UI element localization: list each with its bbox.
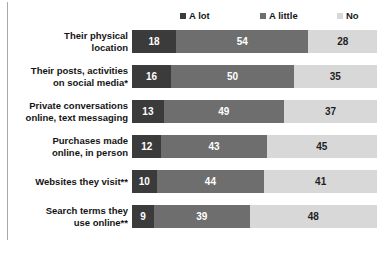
- row-category-label: Their physical location: [10, 27, 128, 56]
- row-label-line2: on social media*: [53, 77, 128, 89]
- row-label-line2: online, text messaging: [26, 112, 128, 124]
- bar-segment-no: 28: [308, 30, 377, 53]
- row-label-line1: Private conversations: [29, 100, 128, 112]
- chart-row: Private conversations online, text messa…: [0, 97, 386, 132]
- stacked-bar: 10 44 41: [132, 170, 377, 193]
- legend-item-no: No: [337, 10, 359, 21]
- bar-segment-a-little: 49: [164, 100, 284, 123]
- chart-row: Their physical location 18 54 28: [0, 27, 386, 62]
- legend-label-no: No: [346, 10, 359, 21]
- stacked-bar: 18 54 28: [132, 30, 377, 53]
- legend-swatch-a-little: [260, 13, 266, 19]
- bar-segment-a-little: 44: [157, 170, 265, 193]
- row-label-line2: use online**: [74, 217, 128, 229]
- bar-segment-a-lot: 10: [132, 170, 157, 193]
- stacked-bar-chart: A lot A little No Their physical locatio…: [0, 0, 386, 253]
- chart-rows: Their physical location 18 54 28 Their p…: [0, 27, 386, 237]
- legend-swatch-a-lot: [180, 13, 186, 19]
- row-label-line2: location: [92, 42, 128, 54]
- legend-label-a-little: A little: [269, 10, 298, 21]
- chart-row: Search terms they use online** 9 39 48: [0, 202, 386, 237]
- bar-segment-a-lot: 13: [132, 100, 164, 123]
- row-label-line1: Search terms they: [46, 205, 128, 217]
- stacked-bar: 9 39 48: [132, 205, 377, 228]
- bar-segment-a-little: 54: [176, 30, 308, 53]
- bar-segment-no: 45: [267, 135, 377, 158]
- legend-swatch-no: [337, 13, 343, 19]
- row-category-label: Search terms they use online**: [10, 202, 128, 231]
- stacked-bar: 12 43 45: [132, 135, 377, 158]
- chart-row: Their posts, activities on social media*…: [0, 62, 386, 97]
- row-category-label: Purchases made online, in person: [10, 132, 128, 161]
- legend-item-a-lot: A lot: [180, 10, 210, 21]
- row-label-line1: Purchases made: [52, 135, 128, 147]
- bar-segment-no: 41: [264, 170, 377, 193]
- legend-label-a-lot: A lot: [189, 10, 210, 21]
- bar-segment-a-lot: 18: [132, 30, 176, 53]
- chart-legend: A lot A little No: [132, 10, 378, 24]
- bar-segment-a-little: 50: [171, 65, 294, 88]
- chart-footnote: [10, 243, 370, 251]
- legend-item-a-little: A little: [260, 10, 298, 21]
- bar-segment-a-little: 43: [161, 135, 266, 158]
- row-label-line1: Websites they visit**: [35, 176, 128, 188]
- row-category-label: Their posts, activities on social media*: [10, 62, 128, 91]
- row-label-line1: Their physical: [64, 30, 128, 42]
- bar-segment-no: 48: [250, 205, 377, 228]
- bar-segment-no: 35: [294, 65, 377, 88]
- row-label-line2: online, in person: [52, 147, 128, 159]
- bar-segment-a-lot: 12: [132, 135, 161, 158]
- bar-segment-a-lot: 9: [132, 205, 154, 228]
- bar-segment-no: 37: [284, 100, 377, 123]
- bar-segment-a-little: 39: [154, 205, 250, 228]
- stacked-bar: 13 49 37: [132, 100, 377, 123]
- row-category-label: Websites they visit**: [10, 167, 128, 196]
- chart-row: Purchases made online, in person 12 43 4…: [0, 132, 386, 167]
- row-label-line1: Their posts, activities: [31, 65, 128, 77]
- row-category-label: Private conversations online, text messa…: [10, 97, 128, 126]
- stacked-bar: 16 50 35: [132, 65, 377, 88]
- chart-row: Websites they visit** 10 44 41: [0, 167, 386, 202]
- bar-segment-a-lot: 16: [132, 65, 171, 88]
